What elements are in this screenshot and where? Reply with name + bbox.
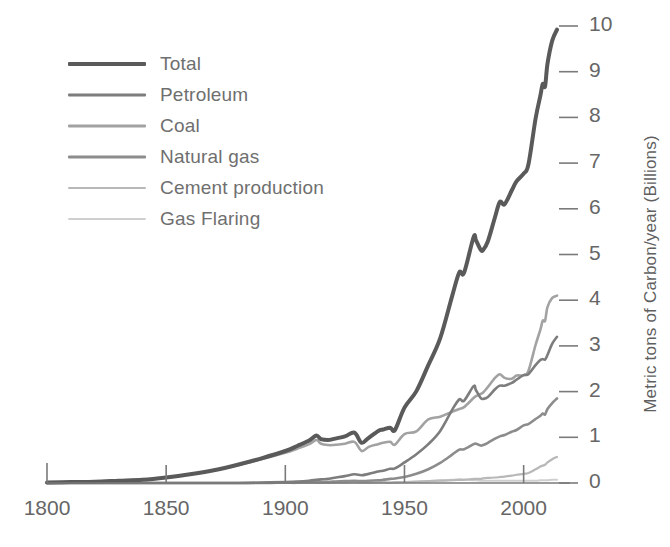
y-tick-label-4: 4 bbox=[589, 286, 601, 310]
y-tick-label-3: 3 bbox=[589, 332, 601, 356]
x-tick-label-1900: 1900 bbox=[245, 496, 325, 520]
chart-figure: Total Petroleum Coal Natural gas Cement … bbox=[0, 0, 670, 547]
x-tick-label-1850: 1850 bbox=[126, 496, 206, 520]
legend-item-cement-production[interactable]: Cement production bbox=[68, 172, 368, 203]
x-tick-label-2000: 2000 bbox=[484, 496, 564, 520]
legend-label-petroleum: Petroleum bbox=[146, 84, 248, 106]
y-axis-title: Metric tons of Carbon/year (Billions) bbox=[636, 0, 666, 547]
legend-label-coal: Coal bbox=[146, 115, 200, 137]
legend-item-total[interactable]: Total bbox=[68, 48, 368, 79]
series-line-natural-gas bbox=[47, 398, 557, 483]
legend-swatch-natural-gas bbox=[68, 150, 146, 164]
legend-label-natural-gas: Natural gas bbox=[146, 146, 259, 168]
y-tick-label-10: 10 bbox=[589, 12, 612, 36]
y-tick-label-0: 0 bbox=[589, 469, 601, 493]
y-axis-title-text: Metric tons of Carbon/year (Billions) bbox=[641, 135, 661, 413]
y-tick-label-9: 9 bbox=[589, 58, 601, 82]
y-tick-label-2: 2 bbox=[589, 378, 601, 402]
legend-item-coal[interactable]: Coal bbox=[68, 110, 368, 141]
y-tick-label-7: 7 bbox=[589, 149, 601, 173]
series-line-petroleum bbox=[47, 337, 557, 483]
legend-swatch-total bbox=[68, 57, 146, 71]
y-tick-label-5: 5 bbox=[589, 241, 601, 265]
legend-item-gas-flaring[interactable]: Gas Flaring bbox=[68, 203, 368, 234]
legend-item-petroleum[interactable]: Petroleum bbox=[68, 79, 368, 110]
y-tick-label-1: 1 bbox=[589, 423, 601, 447]
legend-swatch-gas-flaring bbox=[68, 212, 146, 226]
legend-label-cement-production: Cement production bbox=[146, 177, 324, 199]
x-tick-label-1800: 1800 bbox=[7, 496, 87, 520]
series-line-coal bbox=[47, 296, 557, 483]
legend-label-gas-flaring: Gas Flaring bbox=[146, 208, 260, 230]
x-tick-label-1950: 1950 bbox=[364, 496, 444, 520]
y-tick-label-6: 6 bbox=[589, 195, 601, 219]
legend-label-total: Total bbox=[146, 53, 201, 75]
legend-swatch-petroleum bbox=[68, 88, 146, 102]
y-tick-label-8: 8 bbox=[589, 103, 601, 127]
legend-swatch-coal bbox=[68, 119, 146, 133]
legend-item-natural-gas[interactable]: Natural gas bbox=[68, 141, 368, 172]
legend-swatch-cement-production bbox=[68, 181, 146, 195]
chart-legend: Total Petroleum Coal Natural gas Cement … bbox=[68, 48, 368, 234]
